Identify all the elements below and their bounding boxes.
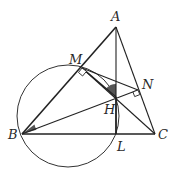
label-a: A bbox=[110, 9, 120, 24]
label-b: B bbox=[7, 127, 18, 142]
geometry-diagram: A B C M N H L bbox=[0, 0, 177, 181]
label-h: H bbox=[103, 102, 116, 117]
label-l: L bbox=[116, 139, 126, 154]
altitude-bn bbox=[22, 90, 138, 134]
segment-ab bbox=[22, 27, 116, 134]
label-m: M bbox=[68, 52, 83, 67]
label-c: C bbox=[158, 127, 168, 142]
segment-mh bbox=[82, 68, 116, 97]
label-n: N bbox=[141, 77, 154, 92]
